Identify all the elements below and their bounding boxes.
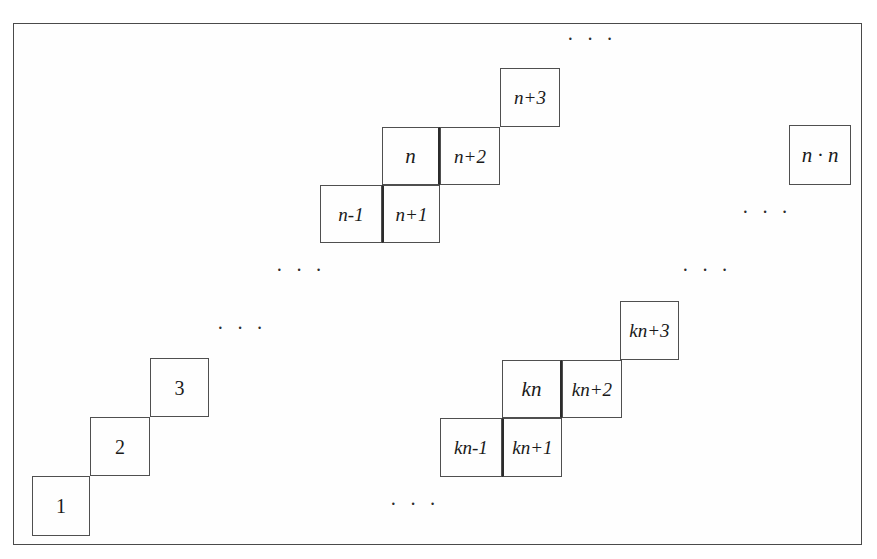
tile-n-times-n: n · n [789,125,851,185]
diagram-canvas: n-1n+1nn+2n+3n · n123kn-1kn+1knkn+2kn+3·… [0,0,877,559]
tile-kn-minus-1: kn-1 [440,418,502,477]
ellipsis-bottom-center: · · · [390,494,440,514]
ellipsis-middle-left: · · · [276,260,326,280]
ellipsis-right-upper: · · · [742,202,792,222]
tile-label-one: 1 [56,496,66,516]
tile-label-n: n [405,145,416,166]
tile-n: n [382,127,440,185]
tile-n-minus-1: n-1 [320,185,382,243]
tile-n-plus-3: n+3 [500,68,560,127]
tile-label-kn: kn [522,378,542,399]
tile-kn: kn [502,360,562,418]
tile-label-n-plus-1: n+1 [396,204,428,223]
tile-label-n-minus-1: n-1 [338,204,363,223]
tile-label-n-plus-2: n+2 [454,146,486,165]
tile-label-kn-plus-1: kn+1 [512,438,552,457]
tile-one: 1 [32,476,90,536]
tile-label-two: 2 [115,436,125,456]
ellipsis-middle-right: · · · [682,260,732,280]
tile-kn-plus-1: kn+1 [502,418,562,477]
tile-label-kn-plus-2: kn+2 [572,379,612,398]
ellipsis-lower-left-upper: · · · [217,318,267,338]
tile-kn-plus-2: kn+2 [562,360,622,418]
tile-label-n-plus-3: n+3 [514,88,546,107]
tile-n-plus-2: n+2 [440,127,500,185]
tile-label-n-times-n: n · n [802,144,839,165]
tile-n-plus-1: n+1 [382,185,440,243]
tile-two: 2 [90,417,150,476]
tile-label-kn-plus-3: kn+3 [629,321,669,340]
tile-kn-plus-3: kn+3 [620,301,679,360]
tile-label-three: 3 [175,377,185,397]
ellipsis-top-center: · · · [567,29,617,49]
tile-three: 3 [150,358,209,417]
tile-label-kn-minus-1: kn-1 [454,438,488,457]
